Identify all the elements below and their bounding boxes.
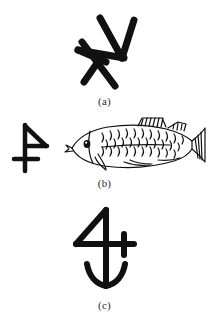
panel-b-figure-area xyxy=(0,112,209,178)
glyph-a xyxy=(62,6,148,92)
figure-panel-a: (a) xyxy=(0,0,209,112)
figure-plate: (a) xyxy=(0,0,209,323)
glyph-b xyxy=(10,118,54,176)
panel-c-caption: (c) xyxy=(0,300,209,311)
panel-a-figure-area xyxy=(0,0,209,92)
panel-a-caption: (a) xyxy=(0,96,209,107)
figure-panel-c: (c) xyxy=(0,196,209,323)
panel-c-figure-area xyxy=(0,196,209,300)
panel-b-caption: (b) xyxy=(0,178,209,189)
fish-illustration xyxy=(62,114,207,176)
glyph-c xyxy=(62,200,148,300)
figure-panel-b: (b) xyxy=(0,112,209,196)
